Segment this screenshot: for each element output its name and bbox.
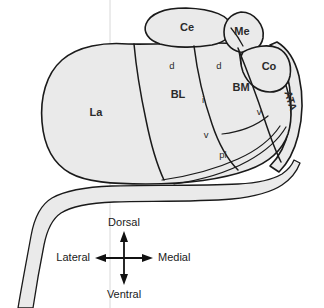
label-ce: Ce: [180, 21, 194, 33]
label-me: Me: [234, 25, 249, 37]
label-bl-dorsal: d: [169, 60, 174, 71]
compass-right-arrowhead: [142, 254, 153, 262]
label-bm-dorsal: d: [216, 60, 221, 71]
orientation-compass: Dorsal Ventral Lateral Medial: [56, 216, 190, 300]
amygdala-diagram-figure: Ce Me Co La BL BM ATA d i v pl d v Dorsa…: [0, 0, 324, 308]
compass-down-arrowhead: [120, 274, 128, 285]
compass-label-medial: Medial: [158, 251, 190, 263]
compass-left-arrowhead: [95, 254, 106, 262]
compass-label-lateral: Lateral: [56, 251, 90, 263]
label-bl-intermediate: i: [202, 94, 204, 105]
diagram-canvas: Ce Me Co La BL BM ATA d i v pl d v Dorsa…: [0, 0, 324, 308]
label-bl-paralaminar: pl: [219, 149, 226, 160]
label-bl-ventral: v: [204, 129, 209, 140]
label-bl: BL: [171, 88, 186, 100]
compass-label-ventral: Ventral: [107, 288, 141, 300]
compass-up-arrowhead: [120, 231, 128, 242]
label-la: La: [90, 106, 104, 118]
label-co: Co: [262, 60, 277, 72]
compass-label-dorsal: Dorsal: [108, 216, 140, 228]
label-bm: BM: [232, 81, 249, 93]
label-bm-ventral: v: [257, 106, 262, 117]
